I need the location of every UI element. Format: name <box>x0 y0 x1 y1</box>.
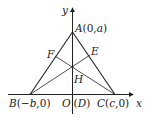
x-axis-label: x <box>136 97 142 109</box>
point-a-label: A(0,a) <box>74 22 107 34</box>
segment-ac <box>73 32 116 95</box>
segment-cf <box>55 56 115 95</box>
point-f-label: F <box>46 48 55 60</box>
y-axis-label: y <box>61 4 69 16</box>
origin-label: O(D) <box>62 97 90 109</box>
point-b-label: B(−b,0) <box>8 97 50 109</box>
point-e-label: E <box>90 45 99 57</box>
point-h-label: H <box>73 73 84 85</box>
geometry-diagram: y x A(0,a) F E H B(−b,0) O(D) C(c,0) <box>0 0 154 122</box>
point-h <box>71 66 73 68</box>
point-c-label: C(c,0) <box>97 97 129 109</box>
